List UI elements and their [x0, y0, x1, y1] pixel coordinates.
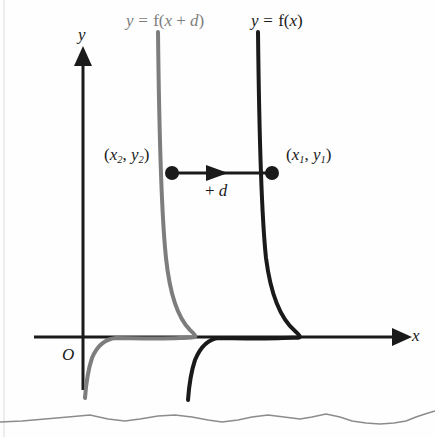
point-label-x1y1: (x1, y1) [286, 146, 331, 166]
y-axis-arrowhead [74, 46, 92, 66]
curve-translated [85, 32, 195, 398]
shift-amount-label: + d [205, 182, 227, 199]
point-marker-x2y2 [165, 166, 179, 180]
curve-original [188, 32, 300, 400]
translation-graph-figure: y = f(x + d) y = f(x) (x2, y2) (x1, y1) … [0, 0, 435, 437]
shift-arrowhead [206, 165, 228, 181]
y-axis-label: y [78, 26, 86, 43]
origin-label: O [62, 346, 74, 363]
x-axis-label: x [412, 327, 420, 344]
graph-canvas [0, 0, 435, 437]
curve-label-translated: y = f(x + d) [126, 12, 204, 29]
curve-label-original: y = f(x) [251, 12, 303, 29]
point-label-x2y2: (x2, y2) [104, 146, 149, 166]
page-edge-bottom [0, 411, 435, 424]
point-marker-x1y1 [265, 166, 279, 180]
x-axis-arrowhead [392, 328, 412, 346]
shift-arrow [172, 165, 272, 181]
